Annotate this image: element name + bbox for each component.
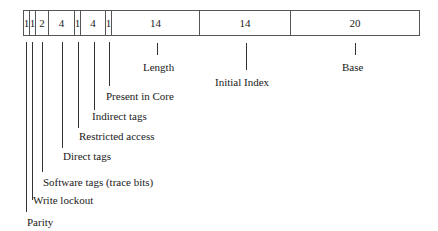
leader-initial-index: [246, 43, 247, 70]
field-base: 20: [290, 10, 420, 36]
leader-write-lockout: [32, 42, 33, 200]
field-software-tags: 2: [35, 10, 49, 36]
label-initial-index: Initial Index: [215, 76, 269, 88]
leader-indirect-tags: [94, 42, 95, 110]
label-write-lockout: Write lockout: [33, 194, 93, 206]
label-direct-tags: Direct tags: [63, 150, 111, 162]
leader-direct-tags: [62, 42, 63, 148]
label-present-in-core: Present in Core: [106, 90, 174, 102]
label-restricted-access: Restricted access: [79, 130, 154, 142]
bit-field-diagram: 1 1 2 4 1 4 1 14 14 20 Parity Write lock…: [0, 0, 438, 231]
field-direct-tags: 4: [48, 10, 75, 36]
label-indirect-tags: Indirect tags: [92, 110, 147, 122]
label-parity: Parity: [27, 216, 53, 228]
leader-length: [157, 43, 158, 55]
label-base: Base: [342, 61, 363, 73]
leader-restricted-access: [78, 42, 79, 128]
leader-software-tags: [42, 42, 43, 172]
field-initial-index: 14: [199, 10, 291, 36]
leader-present-in-core: [109, 42, 110, 86]
leader-base: [355, 43, 356, 55]
field-indirect-tags: 4: [80, 10, 106, 36]
field-length: 14: [111, 10, 200, 36]
label-software-tags: Software tags (trace bits): [43, 176, 153, 188]
label-length: Length: [143, 61, 174, 73]
leader-parity: [26, 42, 27, 212]
